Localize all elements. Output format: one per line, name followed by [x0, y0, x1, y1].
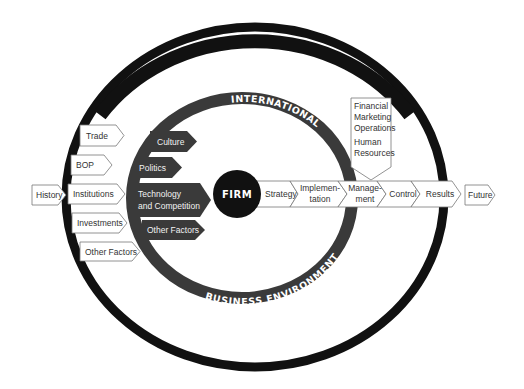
global-factor-bop: BOP — [71, 155, 112, 175]
svg-text:FIRM: FIRM — [222, 189, 252, 200]
svg-text:Future: Future — [468, 190, 493, 200]
management-functions-callout: Financial Marketing Operations Human Res… — [351, 98, 396, 180]
firm-circle: FIRM — [213, 170, 261, 218]
svg-text:Strategy: Strategy — [265, 189, 297, 199]
svg-text:ment: ment — [356, 194, 376, 204]
svg-text:History: History — [36, 190, 63, 200]
business-factor-culture: Culture — [150, 131, 197, 152]
diagram-canvas: GLOBAL ECONOMIC ENVIRONMENT INTERNATIONA… — [0, 0, 524, 389]
svg-text:Politics: Politics — [139, 163, 166, 173]
business-factor-technology: Technology and Competition — [133, 183, 211, 217]
business-factor-politics: Politics — [135, 157, 182, 178]
svg-text:Operations: Operations — [354, 123, 396, 133]
business-factor-other: Other Factors — [142, 220, 205, 240]
svg-text:Culture: Culture — [157, 137, 185, 147]
svg-text:Human: Human — [354, 137, 382, 147]
svg-text:Other Factors: Other Factors — [147, 225, 199, 235]
svg-text:BOP: BOP — [76, 160, 94, 170]
history-box: History — [32, 185, 66, 205]
svg-text:Implemen-: Implemen- — [300, 183, 340, 193]
future-box: Future — [465, 185, 495, 205]
svg-text:Trade: Trade — [86, 131, 108, 141]
inner-ring-label-top: INTERNATIONAL — [231, 93, 323, 129]
svg-text:Investments: Investments — [77, 218, 123, 228]
svg-text:Technology: Technology — [138, 189, 182, 199]
global-factor-trade: Trade — [80, 125, 124, 146]
svg-text:Financial: Financial — [354, 101, 388, 111]
inner-ring-label-bottom: BUSINESS ENVIRONMENT — [204, 251, 340, 307]
global-factor-institutions: Institutions — [68, 184, 125, 204]
global-factor-other: Other Factors — [80, 242, 140, 261]
svg-text:Institutions: Institutions — [73, 189, 114, 199]
svg-text:tation: tation — [310, 194, 331, 204]
process-chain: Strategy Implemen- tation Manage- ment C… — [255, 181, 461, 207]
svg-text:Control: Control — [389, 189, 417, 199]
svg-text:Manage-: Manage- — [348, 183, 382, 193]
svg-text:Other Factors: Other Factors — [85, 247, 137, 257]
international-business-diagram: GLOBAL ECONOMIC ENVIRONMENT INTERNATIONA… — [0, 0, 524, 389]
svg-text:Resources: Resources — [354, 148, 395, 158]
chain-implementation: Implemen- tation — [290, 181, 347, 207]
global-factor-investments: Investments — [72, 213, 127, 233]
svg-text:Marketing: Marketing — [354, 112, 392, 122]
svg-text:and Competition: and Competition — [138, 201, 200, 211]
chain-strategy: Strategy — [255, 181, 298, 207]
svg-text:Results: Results — [426, 189, 454, 199]
